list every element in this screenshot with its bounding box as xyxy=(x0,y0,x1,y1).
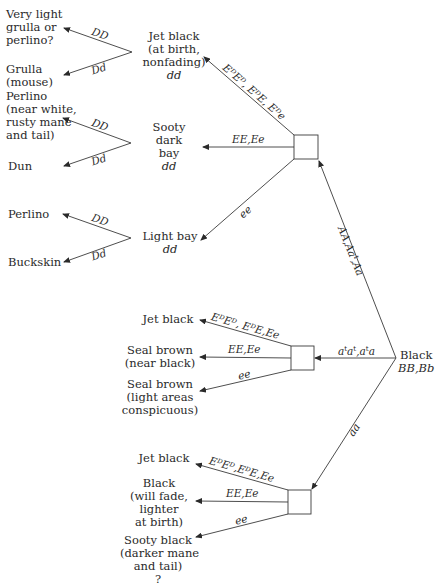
node-text: Jet black xyxy=(138,313,198,326)
node-text: Dun xyxy=(8,160,32,173)
edge-label-g3-ee-dom: EE,Ee xyxy=(226,488,259,499)
node-text: conspicuous) xyxy=(120,404,200,417)
outcome-dun: Dun xyxy=(8,160,32,173)
outcome-g2-jet-black: Jet black xyxy=(138,313,198,326)
node-text: (mouse) xyxy=(6,76,53,89)
node-text: Perlino xyxy=(8,208,49,221)
node-text: at birth) xyxy=(124,516,194,529)
node-genotype: dd xyxy=(144,160,194,173)
node-jet-black-nonfading: Jet black (at birth, nonfading) dd xyxy=(139,30,209,82)
outcome-grulla: Grulla (mouse) xyxy=(6,63,53,89)
outcome-g2-seal-brown-near-black: Seal brown (near black) xyxy=(122,344,198,370)
node-text: Buckskin xyxy=(8,256,61,269)
node-genotype: dd xyxy=(140,243,200,256)
node-text: perlino? xyxy=(6,34,62,47)
outcome-g3-sooty-black: Sooty black (darker mane and tail) ? xyxy=(120,534,196,586)
edge-label-g2-ee-dom: EE,Ee xyxy=(228,344,261,355)
outcome-perlino-near-white: Perlino (near white, rusty mane and tail… xyxy=(6,90,77,142)
outcome-buckskin: Buckskin xyxy=(8,256,61,269)
edge-label-at: atat,ata xyxy=(338,344,375,357)
outcome-g2-seal-brown-light: Seal brown (light areas conspicuous) xyxy=(120,378,200,417)
root-genotype: BB,Bb xyxy=(398,362,434,375)
outcome-perlino: Perlino xyxy=(8,208,49,221)
node-text: (near black) xyxy=(122,357,198,370)
node-light-bay: Light bay dd xyxy=(140,230,200,256)
outcome-very-light-grulla: Very light grulla or perlino? xyxy=(6,8,62,47)
outcome-g3-jet-black: Jet black xyxy=(134,452,194,465)
node-sooty-dark-bay: Sooty dark bay dd xyxy=(144,121,194,173)
node-text: Jet black xyxy=(134,452,194,465)
root-node-black: Black BB,Bb xyxy=(398,349,434,375)
node-text: ? xyxy=(120,573,196,586)
node-genotype: dd xyxy=(139,69,209,82)
edge-label-ee-dom: EE,Ee xyxy=(232,134,265,145)
node-text: and tail) xyxy=(6,129,77,142)
outcome-g3-black-will-fade: Black (will fade, lighter at birth) xyxy=(124,477,194,529)
